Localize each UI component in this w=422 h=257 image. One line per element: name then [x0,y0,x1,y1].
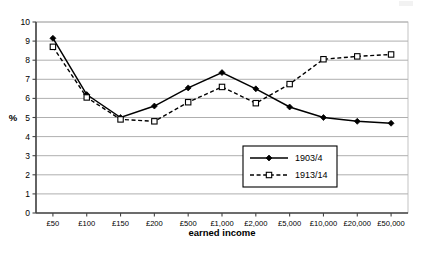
data-point-marker [388,120,394,126]
y-tick-label: 2 [25,170,30,180]
data-point-marker [253,86,259,92]
y-tick-label: 5 [25,113,30,123]
y-axis-title: % [9,112,18,123]
data-point-marker [50,44,55,49]
y-tick-label: 1 [25,189,30,199]
x-axis-title: earned income [188,227,255,238]
data-point-marker [185,100,190,105]
series-line [53,38,391,123]
data-point-marker [320,115,326,121]
x-tick-label: £50 [47,219,60,228]
data-point-marker [253,100,258,105]
x-axis [36,213,408,217]
x-tick-label: £150 [112,219,129,228]
data-point-marker [84,95,89,100]
data-point-marker [354,118,360,124]
scan-artifact [399,1,413,6]
y-tick-label: 3 [25,151,30,161]
data-point-marker [321,57,326,62]
y-tick-label: 0 [25,208,30,218]
x-tick-label: £20,000 [344,219,371,228]
x-tick-label: £50,000 [377,219,404,228]
series-1903-4 [50,35,394,126]
line-chart: 012345678910 £50£100£150£200£500£1,000£2… [0,0,422,257]
data-point-marker [152,119,157,124]
data-point-marker [185,85,191,91]
data-point-marker [266,172,271,177]
x-tick-label: £100 [78,219,95,228]
x-tick-label: £200 [146,219,163,228]
data-point-marker [287,104,293,110]
y-tick-label: 9 [25,36,30,46]
y-tick-label: 6 [25,93,30,103]
y-tick-label: 10 [21,17,31,27]
data-point-marker [151,103,157,109]
y-axis-tick-labels: 012345678910 [21,17,31,218]
gridlines [36,22,408,194]
series-1913-14 [50,44,394,124]
y-tick-label: 4 [25,132,30,142]
data-point-marker [219,84,224,89]
data-series [50,35,394,126]
data-point-marker [355,54,360,59]
y-axis [33,22,37,213]
legend-label: 1913/14 [295,170,328,180]
x-tick-label: £5,000 [278,219,301,228]
y-tick-label: 8 [25,55,30,65]
chart-container: 012345678910 £50£100£150£200£500£1,000£2… [0,0,422,257]
chart-legend: 1903/41913/14 [243,146,337,187]
x-tick-label: £10,000 [310,219,337,228]
data-point-marker [388,52,393,57]
data-point-marker [287,81,292,86]
legend-box [243,146,337,187]
data-point-marker [219,70,225,76]
y-tick-label: 7 [25,74,30,84]
legend-label: 1903/4 [295,153,323,163]
data-point-marker [118,117,123,122]
